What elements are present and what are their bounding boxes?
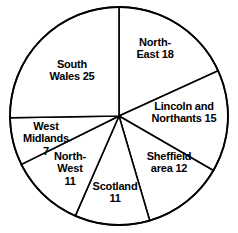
pie-chart-svg xyxy=(0,0,238,233)
pie-slice-south-wales xyxy=(10,7,119,118)
pie-slices-group xyxy=(10,7,228,225)
pie-chart: North- East 18Lincoln and Northants 15Sh… xyxy=(0,0,238,233)
